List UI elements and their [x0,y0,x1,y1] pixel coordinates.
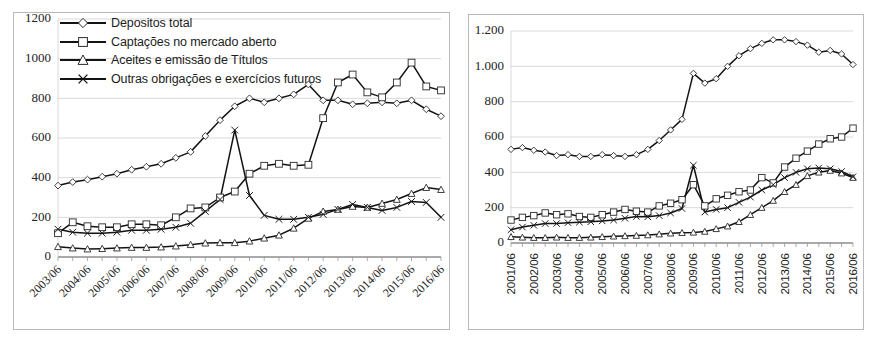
data-point-marker [69,219,76,226]
data-point-marker [202,204,209,211]
data-point-marker [393,100,400,107]
data-point-marker [565,211,571,217]
legend-label: Captações no mercado aberto [108,35,276,49]
data-point-marker [349,101,356,108]
data-point-marker [827,136,833,142]
legend-item-aceites-emissao-titulos[interactable]: Aceites e emissão de Títulos [58,51,368,70]
x-axis-tick-label: 2004/06 [573,253,585,295]
data-point-marker [276,160,283,167]
data-point-marker [158,160,165,167]
data-point-marker [438,87,445,94]
y-axis-tick-label: 400 [485,164,505,179]
data-point-marker [246,170,253,177]
chart-left-legend: Depositos total Captações no mercado abe… [58,14,368,88]
data-point-marker [261,162,268,169]
data-point-marker [553,152,559,158]
data-point-marker [610,152,616,158]
data-point-marker [724,192,730,198]
y-axis-tick-label: 0 [498,234,505,249]
y-axis-tick-label: 600 [485,128,505,143]
data-point-marker [172,214,179,221]
data-point-marker [633,208,639,214]
x-marker-icon [58,71,108,87]
triangle-marker-icon [58,52,108,68]
legend-item-captacoes-mercado-aberto[interactable]: Captações no mercado aberto [58,33,368,52]
data-point-marker [172,154,179,161]
x-axis-tick-label: 2004/06 [56,262,94,300]
x-axis-tick-label: 2013/06 [321,262,359,300]
diamond-marker-icon [58,15,108,31]
data-point-marker [519,214,525,220]
data-point-marker [781,164,787,170]
chart-panel-right: 02004006008001.0001.2002001/062002/06200… [468,14,864,330]
x-axis-tick-label: 2009/06 [203,262,241,300]
data-point-marker [759,174,765,180]
data-point-marker [850,125,856,131]
data-point-marker [656,203,662,209]
data-point-marker [588,153,594,159]
y-axis-tick-label: 0 [45,248,52,263]
data-point-marker [702,203,708,209]
data-point-marker [576,153,582,159]
data-point-marker [55,182,62,189]
data-point-marker [610,209,616,215]
data-point-marker [804,148,810,154]
data-series-line [58,63,441,234]
y-axis-tick-label: 200 [485,199,505,214]
x-axis-tick-label: 2007/06 [642,253,654,295]
data-point-marker [143,163,150,170]
data-point-marker [99,224,106,231]
x-axis-tick-label: 2011/06 [733,253,745,294]
data-point-marker [747,187,753,193]
data-series-line [511,40,853,157]
x-axis-tick-label: 2014/06 [801,253,813,295]
data-point-marker [320,115,327,122]
x-axis-tick-label: 2012/06 [756,253,768,295]
figure-container: 0200400600800100012002003/062004/062005/… [0,0,875,348]
legend-label: Depositos total [108,16,192,30]
chart-right-canvas: 02004006008001.0001.2002001/062002/06200… [469,15,863,329]
x-axis-tick-label: 2014/06 [350,262,388,300]
x-axis-tick-label: 2016/06 [409,262,447,300]
data-point-marker [781,37,787,43]
data-point-marker [84,223,91,230]
data-point-marker [827,47,833,53]
data-point-marker [508,146,514,152]
data-point-marker [553,212,559,218]
data-point-marker [793,155,799,161]
data-point-marker [690,182,696,188]
x-axis-tick-label: 2005/06 [596,253,608,295]
data-point-marker [261,99,268,106]
x-axis-tick-label: 2006/06 [115,262,153,300]
legend-item-outras-obrigacoes[interactable]: Outras obrigações e exercícios futuros [58,70,368,89]
data-point-marker [633,151,639,157]
data-point-marker [305,161,312,168]
data-point-marker [143,221,150,228]
data-point-marker [576,213,582,219]
data-point-marker [667,200,673,206]
y-axis-tick-label: 1.200 [475,22,504,37]
y-axis-tick-label: 1200 [25,13,51,25]
x-axis-tick-label: 2009/06 [687,253,699,295]
data-point-marker [759,187,765,193]
data-point-marker [542,210,548,216]
data-point-marker [187,205,194,212]
data-point-marker [231,188,238,195]
data-point-marker [364,100,371,107]
data-point-marker [84,176,91,183]
legend-item-depositos-total[interactable]: Depositos total [58,14,368,33]
data-point-marker [747,212,753,218]
x-axis-tick-label: 2007/06 [144,262,182,300]
data-point-marker [128,221,135,228]
data-point-marker [408,59,415,66]
x-axis-tick-label: 2006/06 [619,253,631,295]
data-point-marker [519,144,525,150]
data-point-marker [565,151,571,157]
data-point-marker [736,189,742,195]
data-point-marker [276,95,283,102]
data-point-marker [599,212,605,218]
x-axis-tick-label: 2016/06 [847,253,859,295]
x-axis-tick-label: 2008/06 [174,262,212,300]
data-series-line [58,130,441,233]
x-axis-tick-label: 2010/06 [710,253,722,295]
